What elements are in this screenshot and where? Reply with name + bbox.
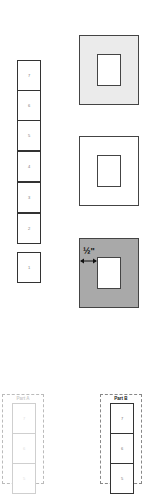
part-a-group: Part A 7 6 5 bbox=[2, 394, 44, 484]
part-b-group: Part B 7 6 5 bbox=[100, 394, 142, 484]
part-a-label: Part A bbox=[3, 396, 43, 401]
measurement-arrow-icon bbox=[80, 257, 98, 265]
stack-cell: 4 bbox=[17, 151, 41, 182]
part-a-cell: 5 bbox=[12, 463, 36, 494]
stack-cell: 6 bbox=[17, 90, 41, 121]
stack-cell: 5 bbox=[17, 120, 41, 151]
stack-cell: 2 bbox=[17, 213, 41, 244]
part-a-cell: 7 bbox=[12, 403, 36, 434]
stack-cell: 3 bbox=[17, 182, 41, 213]
frame-window bbox=[97, 257, 121, 289]
part-a-cell: 6 bbox=[12, 433, 36, 464]
part-b-label: Part B bbox=[101, 396, 141, 401]
stack-cell: 7 bbox=[17, 60, 41, 91]
numbered-stack: 7 6 5 4 3 2 bbox=[17, 60, 41, 245]
white-frame bbox=[79, 136, 139, 206]
part-b-cell: 6 bbox=[110, 433, 134, 464]
dark-gray-frame: ½" bbox=[79, 238, 139, 308]
measurement-label: ½" bbox=[83, 246, 95, 256]
light-gray-frame bbox=[79, 35, 139, 105]
frame-window bbox=[97, 155, 121, 187]
frame-window bbox=[97, 54, 121, 86]
part-b-cell: 7 bbox=[110, 403, 134, 434]
separate-cell: 1 bbox=[17, 252, 41, 283]
part-b-cell: 5 bbox=[110, 463, 134, 494]
